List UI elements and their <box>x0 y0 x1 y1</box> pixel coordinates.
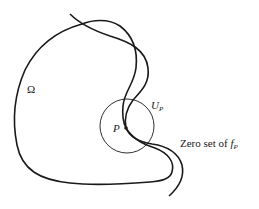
diagram-figure: Ω UP P Zero set of fP <box>0 0 259 209</box>
neighborhood-label-text: U <box>151 99 159 111</box>
zero-set-curve <box>70 14 183 196</box>
domain-boundary-curve <box>14 21 172 185</box>
domain-label-text: Ω <box>27 83 35 95</box>
neighborhood-label-sub: P <box>159 105 163 113</box>
diagram-canvas <box>0 0 259 209</box>
domain-label: Ω <box>27 84 35 95</box>
point-label-text: P <box>113 122 120 134</box>
neighborhood-label: UP <box>151 100 163 113</box>
neighborhood-circle <box>100 99 154 153</box>
point-label: P <box>113 123 120 134</box>
zero-set-label: Zero set of fP <box>180 138 238 151</box>
zero-set-label-prefix: Zero set of <box>180 137 230 149</box>
zero-set-label-sub: P <box>233 143 237 151</box>
point-p-marker <box>124 126 128 130</box>
